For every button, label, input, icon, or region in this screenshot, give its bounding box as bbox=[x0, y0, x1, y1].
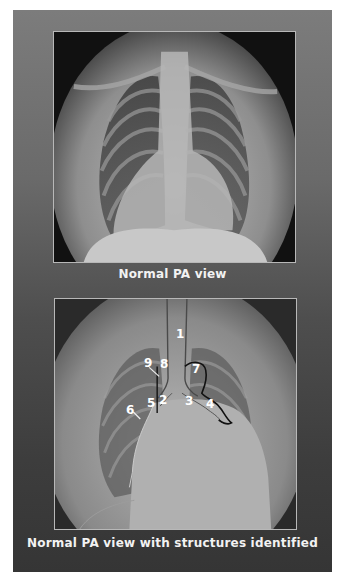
structure-label-4: 4 bbox=[206, 398, 214, 410]
caption-structures-identified: Normal PA view with structures identifie… bbox=[13, 536, 332, 550]
structure-label-3: 3 bbox=[185, 395, 193, 407]
structure-label-9: 9 bbox=[144, 357, 152, 369]
chest-xray-normal-pa bbox=[53, 31, 296, 263]
caption-normal-pa-view: Normal PA view bbox=[13, 267, 332, 281]
structure-label-5: 5 bbox=[147, 397, 155, 409]
xray-image bbox=[54, 32, 295, 262]
structure-label-7: 7 bbox=[192, 363, 200, 375]
structure-label-8: 8 bbox=[160, 358, 168, 370]
structure-label-6: 6 bbox=[126, 404, 134, 416]
structure-label-1: 1 bbox=[176, 328, 184, 340]
structure-label-2: 2 bbox=[159, 394, 167, 406]
